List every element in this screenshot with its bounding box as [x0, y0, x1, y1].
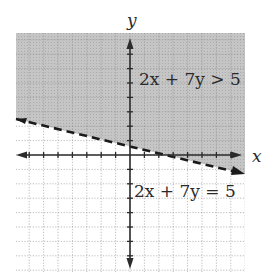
x-axis-label: x [252, 146, 262, 166]
x-axis-left-arrow-icon [16, 152, 27, 159]
y-axis-down-arrow-icon [127, 258, 134, 269]
inequality-graph: y x 2x + 7y > 5 2x + 7y = 5 [0, 0, 272, 272]
boundary-left-arrowhead-icon [16, 118, 27, 124]
boundary-equation-label: 2x + 7y = 5 [134, 181, 236, 201]
inequality-label: 2x + 7y > 5 [139, 69, 241, 89]
y-axis-label: y [126, 10, 137, 30]
